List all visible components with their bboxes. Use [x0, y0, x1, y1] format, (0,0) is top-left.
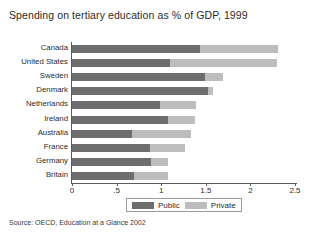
bar-row — [72, 158, 168, 166]
bar-row — [72, 87, 213, 95]
bar-segment-private — [160, 101, 196, 109]
bar-segment-public — [72, 45, 200, 53]
category-label: United States — [4, 57, 68, 66]
x-axis-tick-label: .5 — [113, 186, 120, 195]
bar-segment-private — [170, 59, 277, 67]
bar-segment-public — [72, 172, 134, 180]
bar-segment-public — [72, 73, 205, 81]
category-label: Ireland — [4, 114, 68, 123]
chart-legend: PublicPrivate — [126, 198, 242, 212]
legend-swatch-private — [185, 202, 207, 209]
category-label: Denmark — [4, 85, 68, 94]
x-axis-tick-label: 2.5 — [289, 186, 300, 195]
bar-segment-private — [150, 144, 185, 152]
bar-row — [72, 73, 223, 81]
bar-row — [72, 59, 277, 67]
legend-entry-private: Private — [185, 201, 236, 210]
bar-row — [72, 101, 196, 109]
plot-area — [72, 42, 295, 183]
source-note: Source: OECD, Education at a Glance 2002 — [9, 219, 146, 226]
bar-segment-public — [72, 101, 160, 109]
legend-entry-public: Public — [132, 201, 180, 210]
x-axis-tick-label: 0 — [70, 186, 74, 195]
bar-segment-public — [72, 87, 208, 95]
bar-row — [72, 130, 191, 138]
category-label: France — [4, 142, 68, 151]
category-axis-labels: CanadaUnited StatesSwedenDenmarkNetherla… — [2, 42, 68, 183]
category-label: Australia — [4, 128, 68, 137]
legend-swatch-public — [132, 202, 154, 209]
bar-row — [72, 116, 195, 124]
bar-segment-private — [134, 172, 169, 180]
category-label: Sweden — [4, 71, 68, 80]
x-axis-tick-label: 1 — [159, 186, 163, 195]
bar-row — [72, 45, 278, 53]
legend-label: Private — [211, 201, 236, 210]
category-label: Netherlands — [4, 99, 68, 108]
bar-segment-public — [72, 144, 150, 152]
bar-segment-private — [200, 45, 278, 53]
bar-segment-public — [72, 59, 170, 67]
bar-segment-private — [208, 87, 212, 95]
bar-segment-private — [151, 158, 168, 166]
chart-figure: Spending on tertiary education as % of G… — [0, 0, 312, 238]
chart-title: Spending on tertiary education as % of G… — [9, 9, 248, 21]
x-axis-tick-label: 2 — [248, 186, 252, 195]
category-label: Canada — [4, 43, 68, 52]
category-label: Germany — [4, 156, 68, 165]
bar-segment-private — [168, 116, 195, 124]
category-label: Britain — [4, 170, 68, 179]
bar-row — [72, 172, 168, 180]
bar-segment-private — [132, 130, 191, 138]
bar-segment-private — [205, 73, 223, 81]
x-axis-tick-label: 1.5 — [200, 186, 211, 195]
bar-segment-public — [72, 130, 132, 138]
bar-segment-public — [72, 158, 151, 166]
legend-label: Public — [158, 201, 180, 210]
bar-row — [72, 144, 185, 152]
bar-segment-public — [72, 116, 168, 124]
x-axis-line — [71, 183, 297, 184]
